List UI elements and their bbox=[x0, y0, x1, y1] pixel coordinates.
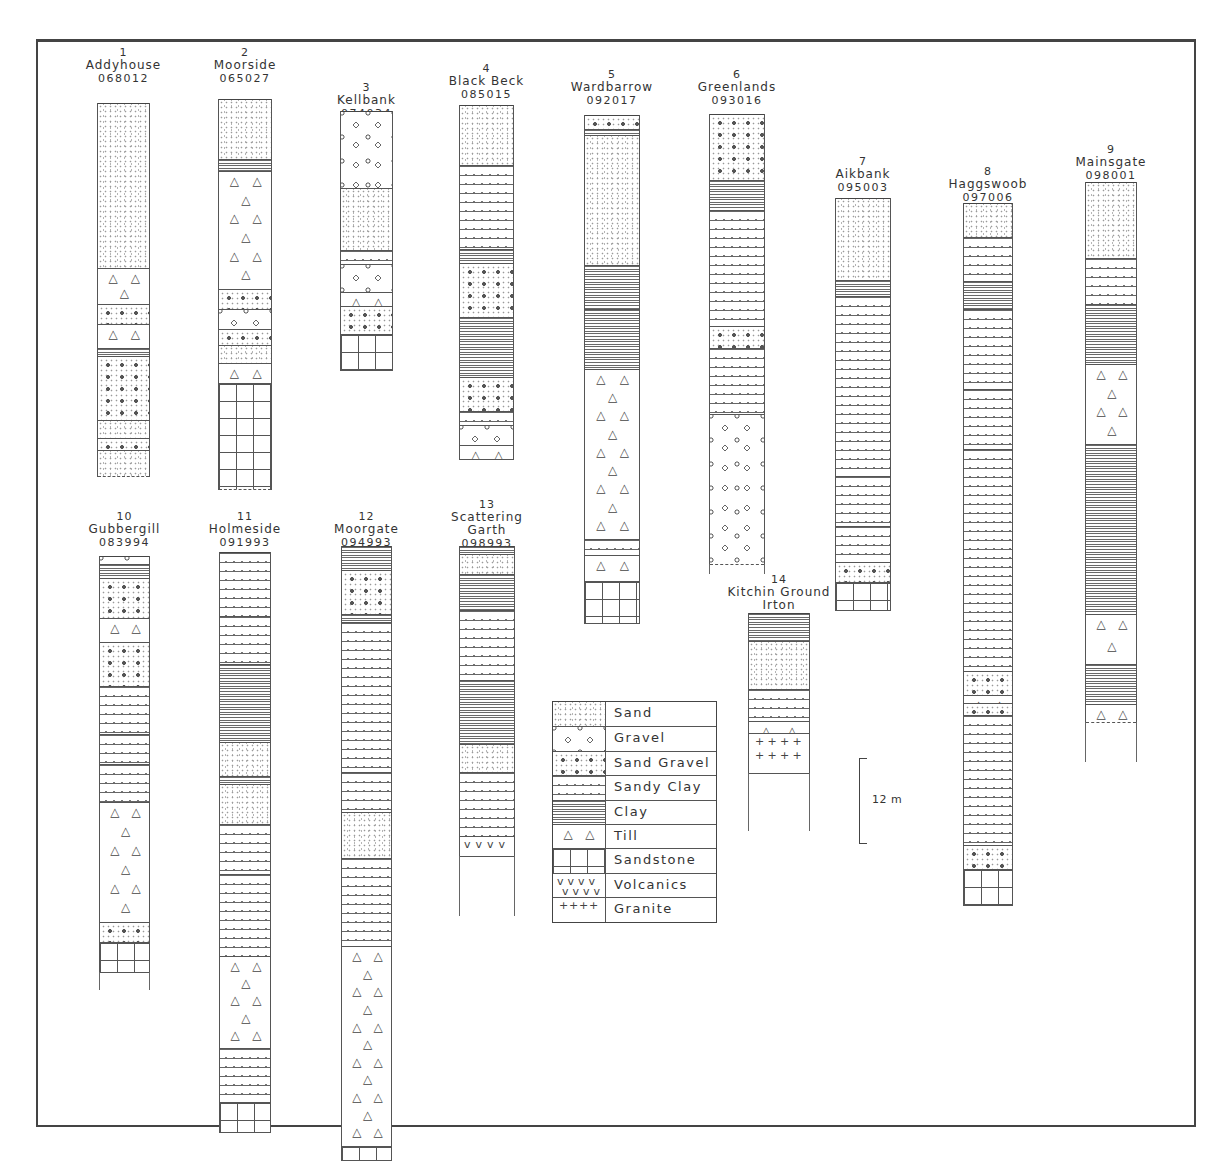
sand-layer bbox=[219, 345, 271, 363]
sandstone-layer bbox=[219, 383, 271, 489]
sandyclay-layer bbox=[342, 858, 391, 946]
legend-item-sand: Sand bbox=[553, 702, 716, 726]
sandgravel-layer bbox=[710, 114, 764, 180]
borehole-header: 2Moorside065027 bbox=[158, 46, 332, 85]
sandgravel-swatch bbox=[553, 752, 606, 775]
sandyclay-layer bbox=[710, 210, 764, 326]
sandgravel-layer bbox=[100, 578, 149, 618]
sandgravel-layer bbox=[585, 115, 639, 129]
till-layer: △△△△△△△△△ bbox=[100, 802, 149, 922]
till-layer: △△ bbox=[460, 445, 513, 459]
till-layer: △△△△△△△△△ bbox=[219, 171, 271, 289]
borehole-log: △△△△△△△△△△△△△△△△ bbox=[584, 115, 640, 624]
sandstone-swatch bbox=[553, 849, 606, 872]
sandyclay-layer bbox=[964, 449, 1012, 671]
clay-layer bbox=[964, 281, 1012, 309]
sand-layer bbox=[219, 99, 271, 159]
clay-layer bbox=[749, 613, 809, 641]
till-layer: △△△△△△ bbox=[1086, 364, 1136, 444]
borehole-name: Irton bbox=[688, 599, 870, 612]
sandgravel-layer bbox=[964, 845, 1012, 869]
borehole-log: △△△△△△△△△△△ bbox=[99, 556, 150, 973]
till-layer: △△ bbox=[964, 695, 1012, 703]
sand-layer bbox=[98, 450, 149, 476]
sandgravel-layer bbox=[100, 642, 149, 686]
borehole-grid-ref: 093016 bbox=[649, 94, 825, 107]
sandstone-layer bbox=[220, 1102, 270, 1132]
lithology-legend: SandGravelSand GravelSandy ClayClay△△Til… bbox=[552, 701, 717, 923]
clay-layer bbox=[100, 564, 149, 578]
sandyclay-layer bbox=[341, 250, 392, 264]
borehole-tail bbox=[748, 773, 810, 831]
legend-label: Clay bbox=[606, 801, 716, 824]
clay-layer bbox=[460, 574, 514, 610]
clay-layer bbox=[585, 265, 639, 309]
sandgravel-layer bbox=[98, 356, 149, 420]
sand-layer bbox=[220, 742, 270, 776]
sand-swatch bbox=[553, 702, 606, 726]
legend-label: Till bbox=[606, 825, 716, 848]
borehole-name: Moorside bbox=[158, 59, 332, 72]
sandgravel-layer bbox=[964, 671, 1012, 695]
sandyclay-layer bbox=[1086, 258, 1136, 304]
borehole-tail bbox=[99, 972, 150, 990]
borehole-grid-ref: 098001 bbox=[1025, 169, 1197, 182]
clay-layer bbox=[710, 180, 764, 210]
legend-item-sandyclay: Sandy Clay bbox=[553, 775, 716, 799]
clay-layer bbox=[460, 546, 514, 554]
legend-label: Granite bbox=[606, 898, 716, 921]
legend-item-volcanics: vvvvvvvvVolcanics bbox=[553, 873, 716, 897]
sand-layer bbox=[460, 105, 513, 165]
sandyclay-layer bbox=[836, 526, 890, 562]
sandstone-layer bbox=[342, 1146, 391, 1160]
borehole-tail bbox=[459, 856, 515, 916]
sandgravel-layer bbox=[964, 703, 1012, 715]
borehole-header: 14Kitchin GroundIrton bbox=[688, 573, 870, 612]
gravel-layer bbox=[460, 425, 513, 445]
borehole-log: △△++++++++ bbox=[748, 613, 810, 774]
borehole-log: △△△△△△△△△△△ bbox=[1085, 182, 1137, 723]
clay-layer bbox=[220, 664, 270, 742]
legend-item-sandgravel: Sand Gravel bbox=[553, 751, 716, 775]
sandyclay-layer bbox=[749, 689, 809, 721]
sandyclay-layer bbox=[964, 237, 1012, 281]
sandyclay-layer bbox=[100, 734, 149, 764]
sandstone-layer bbox=[341, 334, 392, 370]
borehole-name: Greenlands bbox=[649, 81, 825, 94]
borehole-log: △△△△△△△△△△△ bbox=[218, 99, 272, 490]
gravel-layer bbox=[341, 111, 392, 188]
legend-item-sandstone: Sandstone bbox=[553, 848, 716, 872]
legend-label: Sandstone bbox=[606, 849, 716, 872]
clay-layer bbox=[98, 348, 149, 356]
sandyclay-layer bbox=[220, 552, 270, 616]
sand-layer bbox=[836, 198, 890, 280]
sandgravel-layer bbox=[98, 438, 149, 450]
sandyclay-layer bbox=[100, 764, 149, 802]
legend-label: Sandy Clay bbox=[606, 776, 716, 799]
borehole-header: 13ScatteringGarth098993 bbox=[399, 498, 575, 550]
till-layer: △△ bbox=[1086, 704, 1136, 722]
scale-bar bbox=[859, 758, 867, 844]
sand-layer bbox=[460, 554, 514, 574]
gravel-layer bbox=[341, 264, 392, 292]
borehole-log: △△△△△△△△△△△△△△△△△ bbox=[341, 546, 392, 1161]
till-layer: △△△△△△△△△△△△△△△△△ bbox=[342, 946, 391, 1146]
clay-layer bbox=[460, 317, 513, 377]
sandgravel-layer bbox=[219, 329, 271, 345]
sandgravel-layer bbox=[460, 263, 513, 317]
till-layer: △△ bbox=[341, 292, 392, 306]
legend-item-till: △△Till bbox=[553, 824, 716, 848]
borehole-log: △△△△△△△△ bbox=[219, 552, 271, 1133]
sandyclay-layer bbox=[460, 411, 513, 425]
volcanics-layer: vvvv bbox=[460, 836, 514, 856]
till-layer: △△ bbox=[98, 324, 149, 348]
sandgravel-layer bbox=[342, 570, 391, 614]
clay-layer bbox=[342, 546, 391, 570]
borehole-log: △△ bbox=[963, 203, 1013, 906]
borehole-log bbox=[835, 198, 891, 611]
clay-layer bbox=[219, 159, 271, 171]
clay-layer bbox=[460, 249, 513, 263]
volcanics-swatch: vvvvvvvv bbox=[553, 874, 606, 897]
borehole-header: 6Greenlands093016 bbox=[649, 68, 825, 107]
gravel-swatch bbox=[553, 727, 606, 750]
